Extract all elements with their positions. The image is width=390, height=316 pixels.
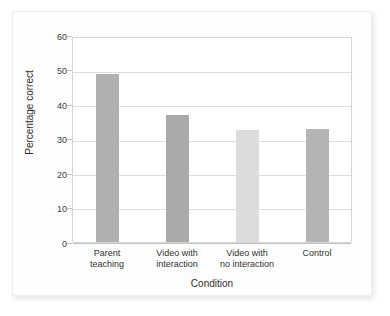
x-tick-label-control: Control [282, 248, 352, 259]
x-axis-title: Condition [72, 278, 352, 289]
x-tick-label-video-with-interaction: Video with interaction [142, 248, 212, 270]
y-tick-label-60: 60 [40, 33, 67, 42]
gridline-50 [73, 72, 351, 73]
x-tick-label-video-with-no-interaction: Video with no interaction [212, 248, 282, 270]
bar-parent-teaching[interactable] [96, 74, 119, 242]
y-tick-label-40: 40 [40, 102, 67, 111]
y-tick-label-50: 50 [40, 67, 67, 76]
y-tick-label-30: 30 [40, 136, 67, 145]
bar-video-with-interaction[interactable] [166, 115, 189, 242]
bar-video-with-no-interaction[interactable] [236, 130, 259, 242]
bar-control[interactable] [306, 129, 329, 242]
x-tick-label-parent-teaching: Parent teaching [72, 248, 142, 270]
gridline-0 [73, 243, 351, 244]
y-tick-label-10: 10 [40, 205, 67, 214]
y-tick-mark-0 [67, 243, 72, 244]
bar-chart: Percentage correct 0 10 20 30 40 50 60 P… [0, 0, 390, 316]
y-tick-label-20: 20 [40, 171, 67, 180]
plot-area [72, 37, 352, 243]
y-tick-label-0: 0 [40, 240, 67, 249]
y-axis-title: Percentage correct [24, 48, 35, 178]
